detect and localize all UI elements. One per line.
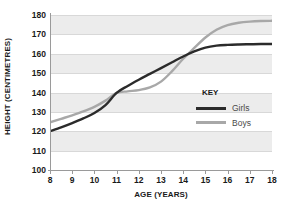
x-tick-11 (117, 170, 118, 174)
x-tick-18 (272, 170, 273, 174)
x-tick-14 (183, 170, 184, 174)
x-tick-12 (139, 170, 140, 174)
y-tick-label-150: 150 (18, 69, 46, 78)
x-axis-title: AGE (YEARS) (50, 190, 272, 199)
height-vs-age-chart: HEIGHT (CENTIMETRES) 1001101201301401501… (0, 0, 284, 209)
x-tick-13 (161, 170, 162, 174)
x-tick-17 (250, 170, 251, 174)
chart-legend: KEY GirlsBoys (196, 88, 274, 133)
legend-entry-boys[interactable]: Boys (196, 119, 274, 128)
y-axis-title-text: HEIGHT (CENTIMETRES) (4, 37, 13, 134)
legend-entries: GirlsBoys (196, 104, 274, 127)
legend-entry-girls[interactable]: Girls (196, 104, 274, 113)
x-tick-16 (228, 170, 229, 174)
x-tick-label-11: 11 (106, 176, 128, 185)
legend-swatch-girls (196, 107, 226, 110)
x-tick-8 (50, 170, 51, 174)
y-axis-line (50, 13, 51, 172)
x-tick-label-10: 10 (83, 176, 105, 185)
x-tick-label-8: 8 (39, 176, 61, 185)
x-axis-tick-labels: 89101112131415161718 (50, 176, 272, 188)
legend-title: KEY (196, 88, 274, 97)
y-tick-label-130: 130 (18, 108, 46, 117)
legend-label-boys: Boys (232, 119, 251, 128)
y-tick-label-120: 120 (18, 127, 46, 136)
y-tick-label-180: 180 (18, 11, 46, 20)
legend-label-girls: Girls (232, 104, 249, 113)
y-axis-title: HEIGHT (CENTIMETRES) (0, 0, 16, 172)
y-tick-label-140: 140 (18, 88, 46, 97)
x-tick-label-17: 17 (239, 176, 261, 185)
x-tick-label-14: 14 (172, 176, 194, 185)
x-tick-label-15: 15 (194, 176, 216, 185)
y-tick-label-110: 110 (18, 146, 46, 155)
x-tick-label-18: 18 (261, 176, 283, 185)
x-tick-15 (205, 170, 206, 174)
x-tick-label-16: 16 (217, 176, 239, 185)
legend-swatch-boys (196, 121, 226, 124)
y-axis-tick-labels: 100110120130140150160170180 (18, 10, 46, 170)
x-tick-10 (94, 170, 95, 174)
x-tick-9 (72, 170, 73, 174)
x-tick-label-13: 13 (150, 176, 172, 185)
y-tick-label-160: 160 (18, 50, 46, 59)
x-tick-label-9: 9 (61, 176, 83, 185)
y-tick-label-100: 100 (18, 166, 46, 175)
x-tick-label-12: 12 (128, 176, 150, 185)
y-tick-label-170: 170 (18, 30, 46, 39)
